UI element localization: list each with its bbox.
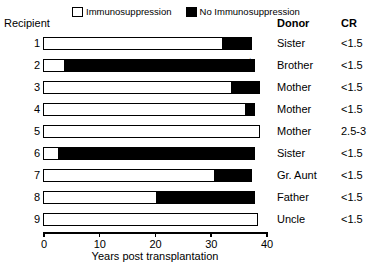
x-tick xyxy=(155,232,157,237)
stacked-bar xyxy=(43,125,260,138)
donor-label: Mother xyxy=(277,81,311,94)
figure-root: Immunosuppression No Immunosuppression R… xyxy=(0,0,384,267)
chart-row: 4Mother<1.5 xyxy=(43,103,266,116)
stacked-bar xyxy=(43,213,258,226)
bar-segment-immunosuppression xyxy=(44,38,222,49)
bar-segment-immunosuppression xyxy=(44,104,245,115)
chart-row: 9Uncle<1.5 xyxy=(43,213,266,226)
x-tick xyxy=(210,232,212,237)
recipient-label: 5 xyxy=(27,125,40,138)
bar-segment-no-immunosuppression xyxy=(245,104,254,115)
bar-segment-no-immunosuppression xyxy=(58,148,254,159)
cr-label: <1.5 xyxy=(341,103,363,116)
x-tick-label: 0 xyxy=(41,238,47,250)
x-tick-label: 20 xyxy=(149,238,161,250)
recipient-label: 4 xyxy=(27,103,40,116)
legend-label-immunosuppression: Immunosuppression xyxy=(86,6,172,17)
chart-legend: Immunosuppression No Immunosuppression xyxy=(72,6,310,17)
column-header-recipient: Recipient xyxy=(4,17,50,29)
bar-segment-immunosuppression xyxy=(44,192,156,203)
bar-segment-immunosuppression xyxy=(44,82,231,93)
legend-swatch-white-icon xyxy=(72,7,83,17)
recipient-label: 7 xyxy=(27,169,40,182)
recipient-label: 1 xyxy=(27,37,40,50)
chart-row: 1Sister<1.5 xyxy=(43,37,266,50)
donor-label: Brother xyxy=(277,59,313,72)
x-axis-title: Years post transplantation xyxy=(43,250,267,262)
cr-label: 2.5-3 xyxy=(341,125,366,138)
chart-row: 3Mother<1.5 xyxy=(43,81,266,94)
legend-swatch-black-icon xyxy=(186,7,197,17)
cr-label: <1.5 xyxy=(341,59,363,72)
star-marker-icon: ✶ xyxy=(246,57,254,67)
legend-entry-no-immunosuppression: No Immunosuppression xyxy=(186,6,300,17)
column-header-cr: CR xyxy=(341,17,357,29)
chart-row: 8Father<1.5 xyxy=(43,191,266,204)
cr-label: <1.5 xyxy=(341,169,363,182)
recipient-label: 8 xyxy=(27,191,40,204)
bar-segment-no-immunosuppression xyxy=(64,60,254,71)
bar-segment-immunosuppression xyxy=(44,60,64,71)
chart-row: 2✶Brother<1.5 xyxy=(43,59,266,72)
recipient-label: 2 xyxy=(27,59,40,72)
stacked-bar xyxy=(43,169,252,182)
stacked-bar xyxy=(43,103,255,116)
cr-label: <1.5 xyxy=(341,81,363,94)
plot-area: 1Sister<1.52✶Brother<1.53Mother<1.54Moth… xyxy=(43,36,266,232)
chart-row: 6Sister<1.5 xyxy=(43,147,266,160)
stacked-bar xyxy=(43,37,252,50)
x-tick xyxy=(99,232,101,237)
x-tick xyxy=(266,232,268,237)
x-tick xyxy=(43,232,45,237)
donor-label: Mother xyxy=(277,125,311,138)
donor-label: Gr. Aunt xyxy=(277,169,317,182)
x-tick-label: 40 xyxy=(261,238,273,250)
bar-segment-no-immunosuppression xyxy=(214,170,251,181)
recipient-label: 6 xyxy=(27,147,40,160)
chart-row: 5Mother2.5-3 xyxy=(43,125,266,138)
recipient-label: 3 xyxy=(27,81,40,94)
x-tick-label: 10 xyxy=(94,238,106,250)
cr-label: <1.5 xyxy=(341,37,363,50)
donor-label: Mother xyxy=(277,103,311,116)
donor-label: Uncle xyxy=(277,213,305,226)
bar-segment-immunosuppression xyxy=(44,148,58,159)
bar-segment-immunosuppression xyxy=(44,170,214,181)
bar-segment-immunosuppression xyxy=(44,214,257,225)
column-header-donor: Donor xyxy=(277,17,309,29)
recipient-label: 9 xyxy=(27,213,40,226)
legend-entry-immunosuppression: Immunosuppression xyxy=(72,6,172,17)
stacked-bar xyxy=(43,147,255,160)
cr-label: <1.5 xyxy=(341,147,363,160)
chart-row: 7Gr. Aunt<1.5 xyxy=(43,169,266,182)
donor-label: Sister xyxy=(277,147,305,160)
cr-label: <1.5 xyxy=(341,191,363,204)
x-tick-label: 30 xyxy=(205,238,217,250)
bar-segment-immunosuppression xyxy=(44,126,259,137)
bar-segment-no-immunosuppression xyxy=(222,38,251,49)
bar-segment-no-immunosuppression xyxy=(231,82,260,93)
legend-label-no-immunosuppression: No Immunosuppression xyxy=(200,6,300,17)
stacked-bar xyxy=(43,59,255,72)
donor-label: Sister xyxy=(277,37,305,50)
bar-segment-no-immunosuppression xyxy=(156,192,254,203)
stacked-bar xyxy=(43,191,255,204)
stacked-bar xyxy=(43,81,260,94)
donor-label: Father xyxy=(277,191,309,204)
cr-label: <1.5 xyxy=(341,213,363,226)
